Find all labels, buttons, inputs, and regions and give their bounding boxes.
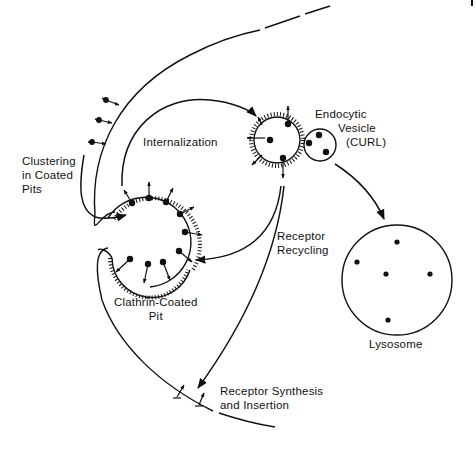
synthesis-arrow	[198, 186, 284, 388]
pit-label-line1: Clathrin-Coated	[114, 295, 198, 309]
plasma-membrane-top	[94, 6, 330, 225]
coated-pit	[98, 182, 202, 298]
inserted-receptors	[173, 385, 204, 406]
synthesis-label-line2: and Insertion	[220, 398, 323, 412]
clustering-label: Clustering in Coated Pits	[22, 154, 76, 196]
to-lysosome-arrow	[335, 164, 384, 219]
endocytosis-diagram: Clustering in Coated Pits Internalizatio…	[0, 0, 476, 452]
vesicle-label-line1: Endocytic	[315, 107, 386, 121]
recycling-arrow	[196, 186, 281, 260]
surface-receptors	[88, 98, 119, 145]
internalization-label: Internalization	[143, 135, 218, 149]
lysosome	[342, 225, 452, 335]
recycling-label-line2: Recycling	[277, 243, 329, 257]
clustering-label-line2: in Coated	[22, 168, 76, 182]
clathrin-pit-label: Clathrin-Coated Pit	[114, 295, 198, 323]
lysosome-label: Lysosome	[369, 337, 423, 351]
receptor-synthesis-label: Receptor Synthesis and Insertion	[220, 384, 323, 412]
clustering-arrow	[81, 155, 126, 218]
endocytic-vesicle-label: Endocytic Vesicle (CURL)	[315, 107, 386, 149]
clustering-label-line1: Clustering	[22, 154, 76, 168]
receptor-recycling-label: Receptor Recycling	[277, 229, 329, 257]
pit-label-line2: Pit	[114, 309, 198, 323]
synthesis-label-line1: Receptor Synthesis	[220, 384, 323, 398]
clustering-label-line3: Pits	[22, 182, 76, 196]
vesicle-label-line3: (CURL)	[315, 135, 386, 149]
recycling-label-line1: Receptor	[277, 229, 329, 243]
vesicle-label-line2: Vesicle	[315, 121, 386, 135]
